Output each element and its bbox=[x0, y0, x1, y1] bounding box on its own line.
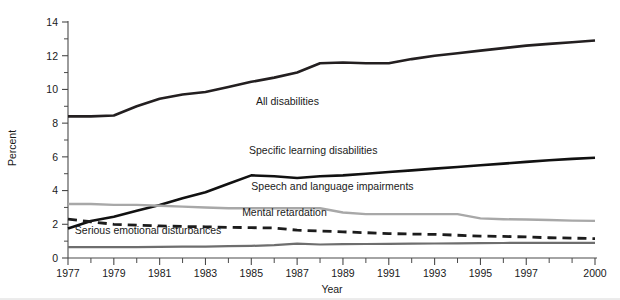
x-axis-title: Year bbox=[321, 283, 343, 295]
x-tick-label: 1993 bbox=[423, 267, 447, 279]
x-tick-label: 1979 bbox=[102, 267, 126, 279]
x-tick-label: 1983 bbox=[194, 267, 218, 279]
series-label: Serious emotional disturbances bbox=[75, 224, 222, 236]
x-tick-label: 1991 bbox=[377, 267, 401, 279]
y-tick-label: 10 bbox=[46, 83, 58, 95]
x-tick-label: 1997 bbox=[515, 267, 539, 279]
y-tick-label: 0 bbox=[52, 252, 58, 264]
y-tick-label: 2 bbox=[52, 218, 58, 230]
y-tick-label: 8 bbox=[52, 117, 58, 129]
chart-figure: 02468101214 1977197919811983198519871989… bbox=[0, 0, 620, 300]
x-tick-label: 1981 bbox=[148, 267, 172, 279]
x-tick-label: 1985 bbox=[240, 267, 264, 279]
x-tick-label: 1995 bbox=[469, 267, 493, 279]
y-tick-label: 4 bbox=[52, 184, 58, 196]
series-label: All disabilities bbox=[256, 95, 319, 107]
line-chart: 02468101214 1977197919811983198519871989… bbox=[0, 0, 620, 300]
series-label: Specific learning disabilities bbox=[249, 144, 377, 156]
series-label: Mental retardation bbox=[242, 206, 327, 218]
y-tick-label: 6 bbox=[52, 151, 58, 163]
series-label: Speech and language impairments bbox=[251, 180, 413, 192]
x-tick-label: 1977 bbox=[56, 267, 80, 279]
x-tick-label: 1989 bbox=[331, 267, 355, 279]
y-tick-label: 12 bbox=[46, 50, 58, 62]
x-tick-label: 1987 bbox=[285, 267, 309, 279]
y-tick-label: 14 bbox=[46, 16, 58, 28]
x-tick-label: 2000 bbox=[583, 267, 607, 279]
y-axis-title: Percent bbox=[6, 130, 18, 166]
